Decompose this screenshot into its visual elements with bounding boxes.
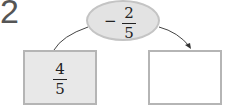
operator-fraction: 2 5 [122, 6, 136, 41]
answer-box[interactable] [148, 50, 222, 105]
denominator: 5 [124, 26, 134, 41]
start-fraction: 4 5 [53, 62, 67, 97]
minus-sign: − [104, 12, 117, 30]
numerator: 4 [55, 62, 65, 77]
numerator: 2 [124, 6, 134, 21]
operation-oval: − 2 5 [86, 0, 160, 41]
denominator: 5 [55, 82, 65, 97]
start-value-box: 4 5 [23, 50, 97, 105]
